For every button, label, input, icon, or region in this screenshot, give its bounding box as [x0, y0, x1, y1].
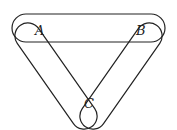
loop-ac — [10, 18, 102, 130]
label-b: B — [136, 24, 146, 37]
loop-bc — [75, 18, 167, 130]
label-c: C — [84, 97, 94, 110]
label-a: A — [35, 24, 44, 37]
